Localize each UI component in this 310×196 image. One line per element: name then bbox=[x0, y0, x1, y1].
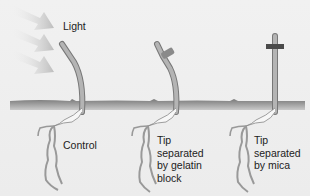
mica-label: Tip separated by mica bbox=[254, 134, 301, 172]
light-arrows-icon bbox=[12, 6, 54, 74]
soil-surface bbox=[10, 99, 305, 110]
light-label: Light bbox=[63, 20, 86, 33]
gelatin-label: Tip separated by gelatin block bbox=[157, 134, 204, 184]
control-label: Control bbox=[63, 139, 97, 152]
mica-plate bbox=[266, 44, 284, 49]
phototropism-diagram: Light Control Tip separated by gelatin b… bbox=[0, 0, 310, 196]
